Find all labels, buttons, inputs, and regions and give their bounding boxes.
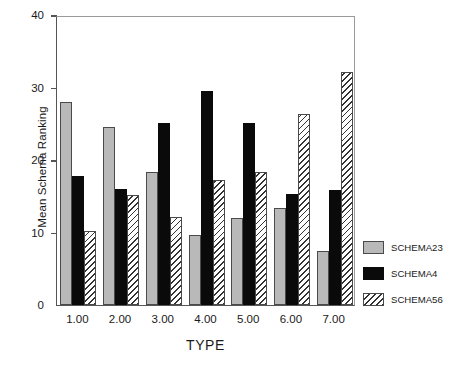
bar[interactable]: [103, 127, 115, 305]
bar-group: [103, 17, 139, 305]
bar-group: [274, 17, 310, 305]
bar-group: [146, 17, 182, 305]
legend-item[interactable]: SCHEMA4: [363, 260, 455, 286]
legend-swatch: [363, 267, 384, 280]
bar[interactable]: [243, 123, 255, 305]
y-axis-tick-label: 40: [14, 10, 44, 22]
bar[interactable]: [170, 217, 182, 305]
bar-group: [60, 17, 96, 305]
bar[interactable]: [60, 102, 72, 305]
x-axis-tick-label: 6.00: [269, 313, 313, 325]
legend-swatch: [363, 293, 384, 306]
bar[interactable]: [189, 235, 201, 305]
plot-area: [56, 16, 355, 306]
y-axis-tick-label: 30: [14, 83, 44, 95]
bar-group: [317, 17, 353, 305]
y-axis-tick-label: 10: [14, 228, 44, 240]
x-axis-tick-label: 5.00: [226, 313, 270, 325]
legend: SCHEMA23SCHEMA4SCHEMA56: [363, 234, 455, 312]
x-axis-tick-label: 2.00: [98, 313, 142, 325]
bar[interactable]: [317, 251, 329, 305]
bar[interactable]: [255, 172, 267, 305]
bar[interactable]: [127, 195, 139, 305]
bar-chart-figure: Mean Schema Ranking 010203040 1.002.003.…: [0, 0, 455, 366]
legend-label: SCHEMA4: [391, 268, 437, 279]
bar-group: [189, 17, 225, 305]
y-axis-tick-label: 0: [14, 300, 44, 312]
bar[interactable]: [72, 176, 84, 305]
x-axis-title: TYPE: [56, 337, 355, 353]
bar[interactable]: [231, 218, 243, 305]
legend-label: SCHEMA56: [391, 294, 443, 305]
bar[interactable]: [201, 91, 213, 305]
legend-label: SCHEMA23: [391, 242, 443, 253]
bar[interactable]: [341, 72, 353, 305]
x-axis-tick-label: 4.00: [184, 313, 228, 325]
legend-item[interactable]: SCHEMA23: [363, 234, 455, 260]
bar[interactable]: [158, 123, 170, 305]
bar[interactable]: [329, 190, 341, 305]
bar[interactable]: [274, 208, 286, 305]
bar[interactable]: [115, 189, 127, 305]
x-axis-tick-label: 7.00: [312, 313, 356, 325]
legend-item[interactable]: SCHEMA56: [363, 286, 455, 312]
y-axis-tick-label: 20: [14, 155, 44, 167]
bar[interactable]: [84, 231, 96, 305]
bar[interactable]: [298, 114, 310, 305]
bar[interactable]: [213, 180, 225, 305]
x-axis-tick-label: 1.00: [55, 313, 99, 325]
bar[interactable]: [146, 172, 158, 305]
bar-groups: [57, 17, 354, 305]
bar-group: [231, 17, 267, 305]
legend-swatch: [363, 241, 384, 254]
bar[interactable]: [286, 194, 298, 305]
x-axis-tick-label: 3.00: [141, 313, 185, 325]
